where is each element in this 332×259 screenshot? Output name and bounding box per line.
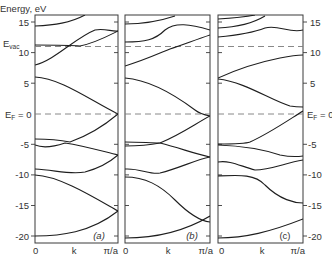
band-structure-figure: Energy, eV xyxy=(0,0,332,259)
fermi-level-label-left: EF = 0 xyxy=(5,109,31,121)
y-ticks xyxy=(31,22,307,236)
fermi-level-label-right: EF = 0 xyxy=(307,109,332,121)
svg-text:π/a: π/a xyxy=(199,245,214,256)
svg-text:5: 5 xyxy=(24,78,29,89)
svg-text:5: 5 xyxy=(310,78,315,89)
svg-text:0: 0 xyxy=(219,245,224,256)
panel-b-frame xyxy=(125,15,210,243)
right-tick-labels: 15 10 5 -5 -10 -15 -20 xyxy=(308,17,322,242)
svg-text:-5: -5 xyxy=(21,139,29,150)
svg-text:10: 10 xyxy=(310,47,321,58)
svg-text:-20: -20 xyxy=(15,231,29,242)
panel-label-a: (a) xyxy=(93,230,105,241)
panel-label-c: (c) xyxy=(279,230,290,241)
panel-label-b: (b) xyxy=(186,230,198,241)
svg-text:k: k xyxy=(166,245,171,256)
panel-c-frame xyxy=(218,15,303,243)
svg-text:15: 15 xyxy=(18,17,29,28)
svg-text:EF = 0: EF = 0 xyxy=(307,109,332,121)
svg-text:15: 15 xyxy=(310,17,321,28)
panel-c-bands xyxy=(218,15,303,238)
svg-text:10: 10 xyxy=(18,47,29,58)
svg-text:k: k xyxy=(72,245,77,256)
svg-text:-10: -10 xyxy=(308,169,322,180)
svg-text:π/a: π/a xyxy=(291,245,306,256)
svg-text:0: 0 xyxy=(123,245,128,256)
panel-b-bands xyxy=(125,16,210,238)
svg-text:-15: -15 xyxy=(15,200,29,211)
svg-text:-15: -15 xyxy=(308,200,322,211)
svg-text:k: k xyxy=(260,245,265,256)
y-axis-title: Energy, eV xyxy=(0,3,47,14)
x-tick-labels: 0 k π/a 0 k π/a 0 k π/a xyxy=(33,245,306,256)
svg-text:-5: -5 xyxy=(308,139,316,150)
svg-text:EF = 0: EF = 0 xyxy=(5,109,31,121)
svg-text:-10: -10 xyxy=(15,169,29,180)
svg-text:π/a: π/a xyxy=(104,245,119,256)
vacuum-level-label-left: Evac xyxy=(3,38,20,50)
svg-text:-20: -20 xyxy=(308,231,322,242)
left-tick-labels: 15 10 5 -5 -10 -15 -20 xyxy=(15,17,29,242)
svg-text:Evac: Evac xyxy=(3,38,20,50)
panel-a-frame xyxy=(35,15,118,243)
panel-a-bands xyxy=(35,15,118,236)
svg-text:0: 0 xyxy=(33,245,38,256)
